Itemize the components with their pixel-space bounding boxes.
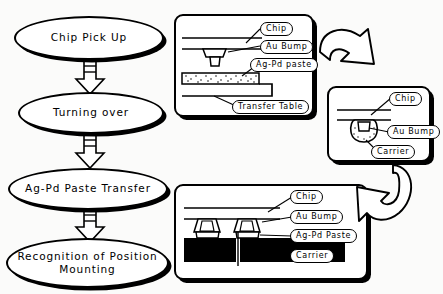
flow-node-label: Recognition of Position Mounting [17,250,157,276]
flow-node-label: Ag-Pd Paste Transfer [25,182,151,195]
label-au-bump: Au Bump [260,40,313,54]
flow-node-recognition-of-position-mounting[interactable]: Recognition of Position Mounting [6,238,169,288]
label-carrier: Carrier [371,145,415,159]
flow-connector-arrow-1 [73,58,107,96]
label-chip: Chip [260,22,293,36]
label-carrier: Carrier [290,249,334,263]
curved-arrow-bottom [355,163,421,241]
flow-node-turning-over[interactable]: Turning over [18,92,164,134]
label-transfer-table: Transfer Table [232,100,309,114]
panel-transfer-table[interactable]: Chip Au Bump Ag-Pd paste Transfer Table [174,14,314,117]
label-chip: Chip [290,190,323,204]
label-ag-pd-paste: Ag-Pd Paste [290,229,357,243]
label-ag-pd-paste: Ag-Pd paste [250,58,318,72]
label-au-bump: Au Bump [290,210,343,224]
flow-node-ag-pd-paste-transfer[interactable]: Ag-Pd Paste Transfer [8,168,168,210]
flow-node-chip-pick-up[interactable]: Chip Pick Up [14,16,164,60]
label-au-bump: Au Bump [387,125,440,139]
flow-node-label: Chip Pick Up [51,31,127,44]
diagram-canvas: Chip Pick Up Turning over Ag-Pd Paste Tr… [0,0,443,294]
curved-arrow-top [316,20,386,98]
panel-mounted[interactable]: Chip Au Bump Ag-Pd Paste Carrier [174,184,368,280]
label-chip: Chip [389,92,422,106]
flow-connector-arrow-2 [73,132,107,170]
flow-node-label: Turning over [53,106,129,119]
